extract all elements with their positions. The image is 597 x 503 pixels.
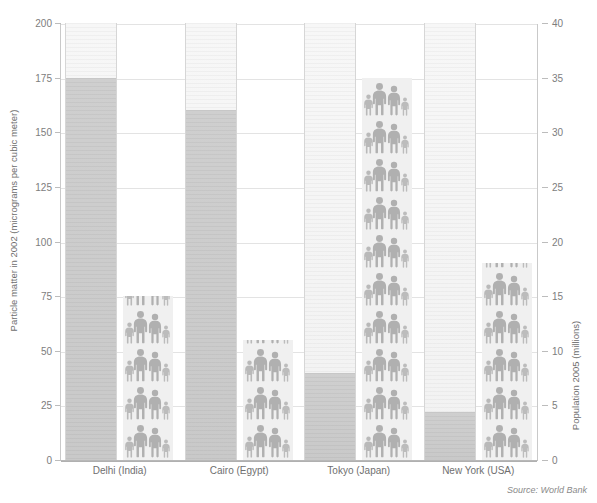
tube-fill bbox=[66, 78, 116, 460]
tick-mark bbox=[542, 351, 548, 352]
pictogram-row bbox=[482, 422, 532, 460]
pictogram-row bbox=[482, 263, 532, 270]
y-tick-right: 15 bbox=[552, 292, 586, 302]
pictogram-stack bbox=[123, 296, 173, 460]
tick-mark bbox=[542, 132, 548, 133]
y-tick-right: 30 bbox=[552, 128, 586, 138]
y-tick-left: 75 bbox=[18, 292, 52, 302]
y-tick-left: 0 bbox=[18, 456, 52, 466]
y-tick-right: 25 bbox=[552, 183, 586, 193]
pictogram-row bbox=[362, 422, 412, 460]
y-tick-right: 40 bbox=[552, 19, 586, 29]
pictogram-row bbox=[123, 384, 173, 422]
pictogram-row bbox=[123, 308, 173, 346]
population-bar[interactable] bbox=[362, 78, 412, 460]
tube-fill bbox=[305, 373, 355, 460]
pictogram-row bbox=[123, 346, 173, 384]
pictogram-stack bbox=[482, 263, 532, 460]
pictogram-row bbox=[362, 232, 412, 270]
pictogram-row bbox=[362, 80, 412, 118]
bar-group bbox=[420, 24, 540, 460]
bar-group bbox=[61, 24, 181, 460]
pictogram-row bbox=[123, 422, 173, 460]
y-tick-right: 10 bbox=[552, 347, 586, 357]
tube-fill bbox=[425, 412, 475, 460]
pictogram-row bbox=[362, 156, 412, 194]
source-note: Source: World Bank bbox=[507, 485, 587, 495]
population-bar[interactable] bbox=[123, 296, 173, 460]
y-tick-left: 200 bbox=[18, 19, 52, 29]
particle-matter-bar[interactable] bbox=[65, 23, 117, 460]
pictogram-row bbox=[362, 346, 412, 384]
tick-mark bbox=[542, 296, 548, 297]
pictogram-row bbox=[482, 346, 532, 384]
pictogram-row bbox=[123, 296, 173, 308]
tick-mark bbox=[542, 23, 548, 24]
tube-fill bbox=[186, 110, 236, 460]
y-tick-left: 50 bbox=[18, 347, 52, 357]
y-tick-right: 35 bbox=[552, 74, 586, 84]
y-tick-right: 5 bbox=[552, 401, 586, 411]
bar-group bbox=[300, 24, 420, 460]
tick-mark bbox=[542, 242, 548, 243]
pictogram-row bbox=[362, 308, 412, 346]
pictogram-row bbox=[482, 308, 532, 346]
pictogram-row bbox=[243, 422, 293, 460]
chart-root: Particle matter in 2002 (micrograms per … bbox=[0, 0, 597, 503]
tick-mark bbox=[542, 187, 548, 188]
y-axis-right-title: Population 2005 (millions) bbox=[570, 301, 581, 451]
x-category-label: Tokyo (Japan) bbox=[299, 465, 419, 476]
pictogram-row bbox=[362, 118, 412, 156]
pictogram-stack bbox=[243, 340, 293, 460]
pictogram-row bbox=[243, 346, 293, 384]
x-category-label: New York (USA) bbox=[419, 465, 539, 476]
particle-matter-bar[interactable] bbox=[185, 23, 237, 460]
tick-mark bbox=[542, 460, 548, 461]
particle-matter-bar[interactable] bbox=[424, 23, 476, 460]
x-category-label: Cairo (Egypt) bbox=[180, 465, 300, 476]
bar-group bbox=[181, 24, 301, 460]
y-tick-left: 150 bbox=[18, 128, 52, 138]
pictogram-row bbox=[362, 270, 412, 308]
y-tick-right: 20 bbox=[552, 238, 586, 248]
tube-body bbox=[425, 23, 475, 460]
pictogram-row bbox=[482, 384, 532, 422]
pictogram-stack bbox=[362, 78, 412, 460]
population-bar[interactable] bbox=[243, 340, 293, 460]
y-tick-left: 175 bbox=[18, 74, 52, 84]
tick-mark bbox=[542, 405, 548, 406]
population-bar[interactable] bbox=[482, 263, 532, 460]
gridline bbox=[61, 461, 537, 462]
y-tick-right: 0 bbox=[552, 456, 586, 466]
particle-matter-bar[interactable] bbox=[304, 23, 356, 460]
pictogram-row bbox=[362, 384, 412, 422]
plot-area bbox=[60, 24, 538, 461]
pictogram-row bbox=[482, 270, 532, 308]
y-tick-left: 100 bbox=[18, 238, 52, 248]
pictogram-row bbox=[243, 384, 293, 422]
y-tick-left: 25 bbox=[18, 401, 52, 411]
y-tick-left: 125 bbox=[18, 183, 52, 193]
pictogram-row bbox=[362, 194, 412, 232]
x-category-label: Delhi (India) bbox=[60, 465, 180, 476]
tick-mark bbox=[542, 78, 548, 79]
y-axis-left-title: Particle matter in 2002 (micrograms per … bbox=[8, 61, 19, 381]
